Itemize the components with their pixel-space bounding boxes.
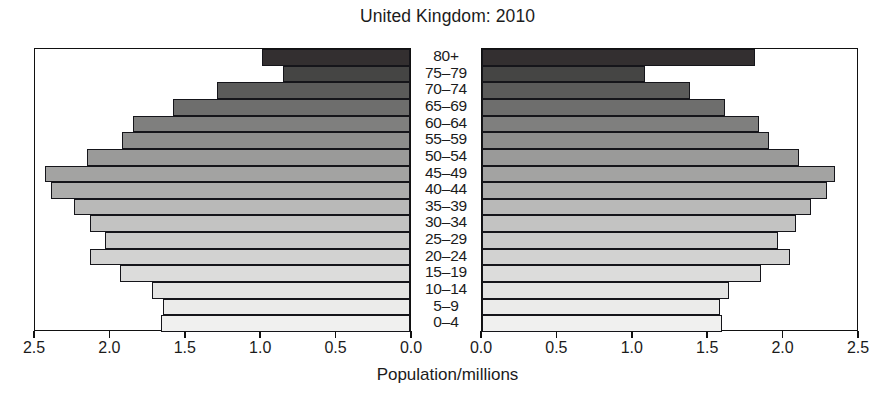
bar-left-5-9 bbox=[163, 299, 410, 316]
bar-left-65-69 bbox=[173, 99, 410, 116]
bar-right-80+ bbox=[482, 49, 755, 66]
age-group-label: 25–29 bbox=[411, 231, 481, 248]
bar-row bbox=[482, 199, 857, 216]
axis-tick bbox=[109, 331, 111, 338]
bar-left-45-49 bbox=[45, 166, 410, 183]
age-group-label: 0–4 bbox=[411, 314, 481, 331]
bar-row bbox=[35, 66, 410, 83]
bar-row bbox=[482, 132, 857, 149]
bar-row bbox=[482, 166, 857, 183]
bar-row bbox=[35, 99, 410, 116]
age-group-label: 60–64 bbox=[411, 115, 481, 132]
axis-tick bbox=[410, 331, 412, 338]
bar-row bbox=[482, 82, 857, 99]
plot-panel-left bbox=[34, 48, 411, 331]
bar-row bbox=[482, 265, 857, 282]
age-group-label: 70–74 bbox=[411, 81, 481, 98]
bar-row bbox=[482, 182, 857, 199]
axis-tick bbox=[259, 331, 261, 338]
bar-row bbox=[482, 149, 857, 166]
bar-row bbox=[35, 82, 410, 99]
bar-right-25-29 bbox=[482, 232, 778, 249]
axis-tick bbox=[857, 331, 859, 338]
bar-row bbox=[35, 116, 410, 133]
x-axis-title: Population/millions bbox=[0, 365, 895, 385]
axis-tick-label-right: 0.5 bbox=[526, 339, 586, 357]
bar-row bbox=[35, 299, 410, 316]
axis-tick-label-left: 2.5 bbox=[4, 339, 64, 357]
axis-tick-label-left: 2.0 bbox=[79, 339, 139, 357]
bar-row bbox=[482, 282, 857, 299]
age-group-label: 35–39 bbox=[411, 198, 481, 215]
age-group-label: 55–59 bbox=[411, 131, 481, 148]
axis-tick-label-left: 0.5 bbox=[306, 339, 366, 357]
bar-row bbox=[482, 249, 857, 266]
bar-right-0-4 bbox=[482, 315, 722, 332]
bar-row bbox=[35, 132, 410, 149]
bar-right-40-44 bbox=[482, 182, 827, 199]
bar-right-60-64 bbox=[482, 116, 759, 133]
bar-left-10-14 bbox=[152, 282, 410, 299]
axis-tick bbox=[556, 331, 558, 338]
age-group-label: 30–34 bbox=[411, 214, 481, 231]
bar-left-70-74 bbox=[217, 82, 410, 99]
axis-tick-label-right: 0.0 bbox=[451, 339, 511, 357]
bar-right-15-19 bbox=[482, 265, 761, 282]
axis-tick bbox=[631, 331, 633, 338]
axis-tick-label-left: 0.0 bbox=[381, 339, 441, 357]
bar-row bbox=[35, 49, 410, 66]
bar-left-25-29 bbox=[105, 232, 410, 249]
bar-left-30-34 bbox=[90, 215, 410, 232]
bar-right-65-69 bbox=[482, 99, 725, 116]
bar-left-35-39 bbox=[74, 199, 410, 216]
bar-row bbox=[35, 282, 410, 299]
age-group-label: 20–24 bbox=[411, 248, 481, 265]
age-group-label: 5–9 bbox=[411, 298, 481, 315]
age-group-label: 40–44 bbox=[411, 181, 481, 198]
bar-left-55-59 bbox=[122, 132, 410, 149]
age-group-label-column: 0–45–910–1415–1920–2425–2930–3435–3940–4… bbox=[411, 48, 481, 331]
bar-row bbox=[482, 315, 857, 332]
age-group-label: 75–79 bbox=[411, 65, 481, 82]
bar-right-30-34 bbox=[482, 215, 796, 232]
axis-tick-label-left: 1.0 bbox=[230, 339, 290, 357]
age-group-label: 45–49 bbox=[411, 165, 481, 182]
bar-row bbox=[35, 149, 410, 166]
bar-left-20-24 bbox=[90, 249, 410, 266]
bar-row bbox=[35, 215, 410, 232]
axis-tick-label-right: 1.0 bbox=[602, 339, 662, 357]
age-group-label: 65–69 bbox=[411, 98, 481, 115]
bar-right-45-49 bbox=[482, 166, 835, 183]
bar-right-75-79 bbox=[482, 66, 645, 83]
bar-left-15-19 bbox=[120, 265, 410, 282]
bar-row bbox=[482, 66, 857, 83]
population-pyramid-figure: United Kingdom: 2010 0–45–910–1415–1920–… bbox=[0, 0, 895, 409]
bar-left-50-54 bbox=[87, 149, 410, 166]
bar-row bbox=[35, 232, 410, 249]
age-group-label: 50–54 bbox=[411, 148, 481, 165]
axis-tick-label-left: 1.5 bbox=[155, 339, 215, 357]
axis-tick bbox=[335, 331, 337, 338]
bar-right-50-54 bbox=[482, 149, 799, 166]
age-group-label: 80+ bbox=[411, 48, 481, 65]
bar-right-70-74 bbox=[482, 82, 690, 99]
bar-left-40-44 bbox=[51, 182, 410, 199]
bar-row bbox=[482, 299, 857, 316]
x-axis-left: 2.52.01.51.00.50.0 bbox=[34, 331, 411, 361]
bar-row bbox=[35, 182, 410, 199]
bar-group-left bbox=[35, 49, 410, 330]
bar-row bbox=[35, 249, 410, 266]
age-group-label: 10–14 bbox=[411, 281, 481, 298]
bar-row bbox=[35, 199, 410, 216]
bar-group-right bbox=[482, 49, 857, 330]
x-axis-right: 0.00.51.01.52.02.5 bbox=[481, 331, 858, 361]
chart-title: United Kingdom: 2010 bbox=[0, 6, 895, 27]
bar-row bbox=[482, 49, 857, 66]
bar-right-5-9 bbox=[482, 299, 720, 316]
plot-panel-right bbox=[481, 48, 858, 331]
axis-tick bbox=[706, 331, 708, 338]
bar-row bbox=[482, 232, 857, 249]
bar-row bbox=[35, 265, 410, 282]
axis-tick-label-right: 2.5 bbox=[828, 339, 888, 357]
bar-row bbox=[35, 315, 410, 332]
